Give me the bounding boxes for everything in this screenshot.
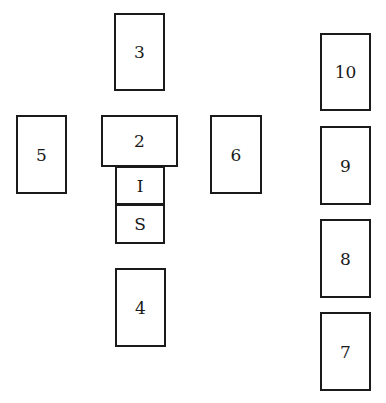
card-2: 2 (101, 115, 178, 167)
card-4: 4 (115, 268, 166, 347)
card-7-label: 7 (340, 342, 351, 362)
card-s: S (115, 204, 165, 244)
card-7: 7 (320, 312, 371, 391)
card-5: 5 (16, 115, 67, 194)
card-6-label: 6 (231, 145, 242, 165)
card-1: I (115, 166, 165, 205)
card-9-label: 9 (340, 156, 351, 176)
card-10-label: 10 (335, 62, 357, 82)
card-4-label: 4 (135, 298, 146, 318)
card-3: 3 (114, 13, 165, 91)
card-s-label: S (134, 214, 146, 234)
card-6: 6 (210, 115, 262, 194)
card-9: 9 (320, 126, 371, 205)
card-10: 10 (320, 33, 371, 111)
card-3-label: 3 (134, 42, 145, 62)
card-5-label: 5 (36, 145, 47, 165)
card-8: 8 (320, 219, 371, 298)
card-1-label: I (137, 176, 144, 196)
card-8-label: 8 (340, 249, 351, 269)
card-2-label: 2 (134, 131, 145, 151)
